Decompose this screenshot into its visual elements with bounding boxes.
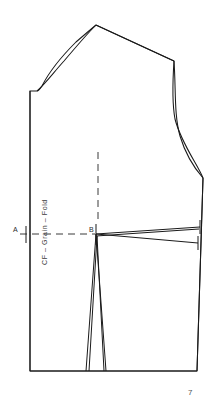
waist-dart-left-leg [86, 234, 96, 371]
bust-dart-lower-leg [96, 234, 198, 243]
bodice-pattern-drawing: A B CF – Grain – Fold 7 [0, 0, 213, 410]
shoulder-seam-line [96, 25, 174, 61]
page-number-label: 7 [188, 388, 193, 397]
side-seam-line [197, 178, 203, 371]
waist-dart-inner-right-leg [97, 236, 104, 371]
armhole-curve [174, 61, 203, 178]
pattern-sheet: A B CF – Grain – Fold 7 [0, 0, 213, 410]
point-a-label: A [13, 226, 18, 233]
point-b-label: B [89, 226, 94, 233]
waist-dart-inner-left-leg [89, 236, 97, 371]
bodice-outline-path [30, 25, 203, 371]
grain-line-label: CF – Grain – Fold [41, 199, 48, 265]
neckline-curve [37, 25, 96, 91]
